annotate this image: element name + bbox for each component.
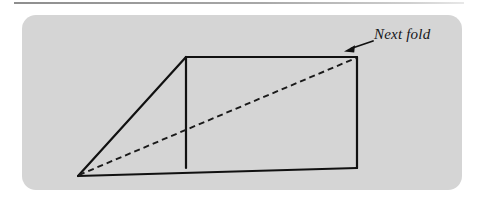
figure-root: Next fold bbox=[0, 0, 478, 201]
next-fold-label: Next fold bbox=[374, 26, 430, 43]
triangle-hypotenuse-edge bbox=[78, 57, 186, 176]
diagram-geometry bbox=[78, 57, 357, 176]
base-edge bbox=[78, 168, 357, 176]
pointer-arrow bbox=[344, 41, 373, 52]
dashed-fold-diagonal bbox=[79, 58, 356, 175]
pointer-arrow-head bbox=[344, 45, 355, 52]
